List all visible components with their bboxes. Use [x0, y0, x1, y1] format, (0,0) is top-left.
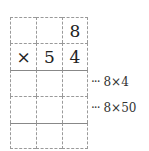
- ellipsis: ···: [91, 75, 99, 89]
- cell-r0-c1: [36, 17, 62, 43]
- cell-r0-c2: 8: [62, 17, 88, 43]
- cell-r1-c2: 4: [62, 43, 88, 69]
- annotation-partial-product-2: ···8×50: [91, 101, 136, 115]
- cell-r2-c2: [62, 70, 88, 96]
- cell-r1-c1: 5: [36, 43, 62, 69]
- cell-r4-c1: [36, 123, 62, 149]
- ellipsis: ···: [91, 101, 99, 115]
- cell-r2-c1: [36, 70, 62, 96]
- cell-r0-c0: [10, 17, 36, 43]
- cell-r3-c0: [10, 96, 36, 122]
- cell-r1-c0: ×: [10, 43, 36, 69]
- cell-r4-c0: [10, 123, 36, 149]
- annotation-partial-product-1: ···8×4: [91, 75, 129, 89]
- annotation-text: 8×50: [103, 101, 136, 115]
- cell-r3-c1: [36, 96, 62, 122]
- cell-r4-c2: [62, 123, 88, 149]
- cell-r3-c2: [62, 96, 88, 122]
- multiplication-grid: 8 × 5 4: [10, 17, 88, 149]
- cell-r2-c0: [10, 70, 36, 96]
- annotation-text: 8×4: [103, 75, 128, 89]
